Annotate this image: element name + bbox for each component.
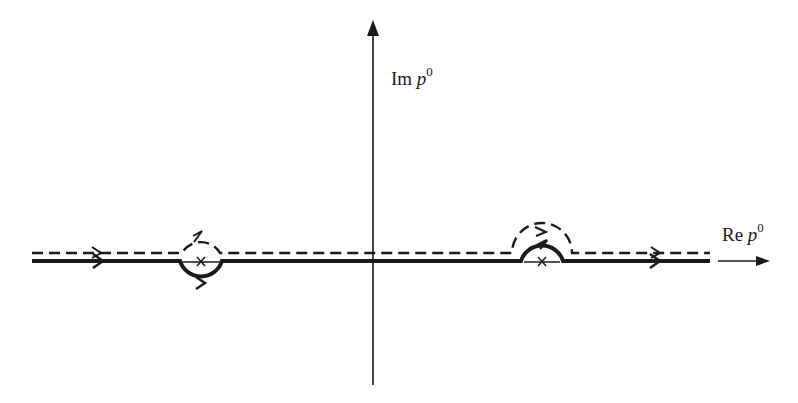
imaginary-axis (367, 20, 379, 385)
dashed-arrow-icon (193, 231, 202, 242)
re-superscript: 0 (757, 220, 764, 235)
dashed-arrow-icon (535, 227, 546, 236)
real-axis (718, 256, 770, 266)
real-axis-arrow-icon (756, 256, 770, 266)
complex-plane-diagram (0, 0, 798, 403)
dashed-contour (32, 223, 710, 258)
im-prefix: Im (391, 68, 412, 89)
imaginary-axis-arrow-icon (367, 20, 379, 36)
solid-arrow-icon (196, 277, 205, 289)
im-superscript: 0 (426, 64, 433, 79)
re-variable: p (748, 224, 758, 245)
real-axis-label: Re p0 (722, 222, 764, 246)
solid-contour (32, 240, 710, 289)
re-prefix: Re (722, 224, 743, 245)
im-variable: p (417, 68, 427, 89)
imaginary-axis-label: Im p0 (391, 66, 433, 90)
